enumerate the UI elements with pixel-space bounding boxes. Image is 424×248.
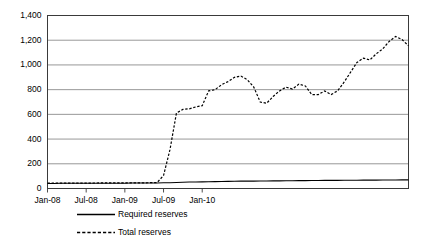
reserves-line-chart: 02004006008001,0001,2001,400 Jan-08Jul-0…	[0, 0, 424, 248]
y-axis-tick-label: 1,000	[0, 60, 42, 69]
legend-label-total-reserves: Total reserves	[118, 228, 171, 237]
y-axis-tick-label: 400	[0, 135, 42, 144]
y-axis-tick-label: 0	[0, 184, 42, 193]
series-line-total-reserves	[48, 37, 409, 184]
chart-plot-area	[0, 0, 424, 248]
legend-entry-total-reserves: Total reserves	[77, 226, 171, 238]
y-axis-tick-label: 200	[0, 159, 42, 168]
gridlines	[48, 40, 409, 164]
x-axis-ticks	[48, 189, 203, 193]
legend-swatch-solid	[77, 210, 115, 219]
y-axis-tick-label: 1,200	[0, 36, 42, 45]
legend-swatch-dashed	[77, 228, 115, 237]
plot-frame	[48, 16, 409, 189]
y-axis-tick-label: 600	[0, 110, 42, 119]
y-axis-tick-label: 800	[0, 85, 42, 94]
legend-label-required-reserves: Required reserves	[118, 210, 187, 219]
x-axis-tick-label: Jan-10	[172, 196, 232, 205]
y-axis-tick-label: 1,400	[0, 11, 42, 20]
legend-entry-required-reserves: Required reserves	[77, 208, 187, 220]
